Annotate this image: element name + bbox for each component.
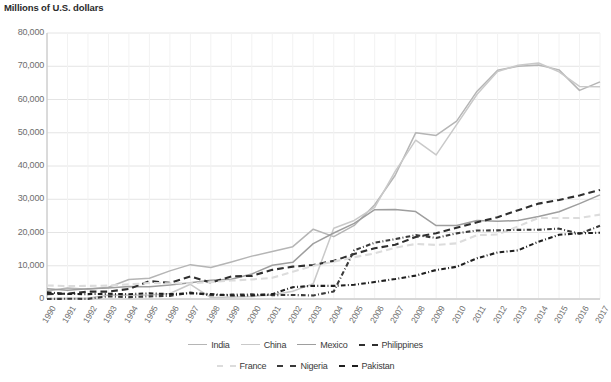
legend-label-china: China	[264, 340, 287, 350]
legend-swatch-china	[241, 344, 260, 345]
legend-item-china[interactable]: China	[241, 340, 287, 350]
series-line-philippines	[47, 190, 600, 294]
legend-row-primary: IndiaChinaMexicoPhilippines	[0, 334, 611, 355]
legend-label-pakistan: Pakistan	[362, 361, 395, 371]
y-tick-label: 70,000	[0, 60, 44, 70]
legend-swatch-mexico	[297, 344, 316, 345]
y-tick-label: 10,000	[0, 260, 44, 270]
series-lines	[47, 63, 600, 299]
legend-item-pakistan[interactable]: Pakistan	[339, 361, 395, 371]
legend-item-france[interactable]: France	[217, 361, 267, 371]
y-tick-label: 20,000	[0, 227, 44, 237]
legend-swatch-philippines	[359, 344, 378, 346]
legend-swatch-india	[188, 344, 207, 345]
y-tick-label: 40,000	[0, 160, 44, 170]
remittances-line-chart: Millions of U.S. dollars 80,00070,00060,…	[0, 0, 611, 382]
series-line-mexico	[47, 195, 600, 290]
legend-label-philippines: Philippines	[382, 340, 423, 350]
legend-label-france: France	[240, 361, 267, 371]
legend-label-india: India	[211, 340, 230, 350]
legend-item-philippines[interactable]: Philippines	[359, 340, 423, 350]
legend-label-nigeria: Nigeria	[300, 361, 327, 371]
legend-swatch-nigeria	[277, 365, 296, 367]
legend-item-india[interactable]: India	[188, 340, 230, 350]
y-tick-label: 0	[0, 293, 44, 303]
y-tick-label: 30,000	[0, 193, 44, 203]
legend-swatch-france	[217, 365, 236, 367]
legend-item-nigeria[interactable]: Nigeria	[277, 361, 327, 371]
chart-legend: IndiaChinaMexicoPhilippines FranceNigeri…	[0, 334, 611, 376]
y-tick-label: 60,000	[0, 94, 44, 104]
y-tick-label: 80,000	[0, 27, 44, 37]
gridlines	[47, 33, 600, 299]
legend-swatch-pakistan	[339, 365, 358, 367]
y-tick-label: 50,000	[0, 127, 44, 137]
legend-row-secondary: FranceNigeriaPakistan	[0, 355, 611, 376]
legend-label-mexico: Mexico	[320, 340, 347, 350]
legend-item-mexico[interactable]: Mexico	[297, 340, 347, 350]
